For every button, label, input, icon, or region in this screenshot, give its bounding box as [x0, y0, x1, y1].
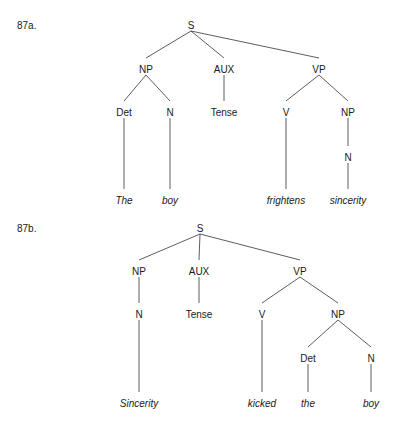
- category-node-v: V: [259, 309, 266, 320]
- example-number: 87a.: [17, 20, 36, 31]
- category-node-n: N: [166, 107, 173, 118]
- category-node-np: NP: [341, 107, 355, 118]
- category-node-tense: Tense: [186, 309, 213, 320]
- terminal-word: frightens: [267, 195, 305, 206]
- category-node-vp: VP: [312, 64, 326, 75]
- tree-edge-s-to-np1: [146, 31, 191, 58]
- category-node-s: S: [197, 223, 204, 234]
- terminal-word: the: [301, 398, 315, 409]
- syntax-tree-diagram: 87a.SNPAUXVPDetNTenseVNPNTheboyfrightens…: [0, 0, 396, 425]
- tree-edge-np1-to-n1: [146, 75, 170, 101]
- tree-edge-vp-to-v: [262, 277, 300, 303]
- category-node-s: S: [188, 20, 195, 31]
- terminal-word: Sincerity: [120, 398, 159, 409]
- category-node-det: Det: [300, 353, 316, 364]
- terminal-word: boy: [162, 195, 179, 206]
- tree-edge-np2-to-n2: [338, 320, 371, 347]
- category-node-tense: Tense: [211, 107, 238, 118]
- tree-edge-s-to-aux: [191, 31, 224, 58]
- tree-edge-np2-to-det: [308, 320, 338, 347]
- tree-87b: 87b.SNPAUXVPNTenseVNPDetNSinceritykicked…: [17, 223, 380, 409]
- tree-edge-vp-to-np2: [319, 75, 348, 101]
- tree-edge-vp-to-v: [286, 75, 319, 101]
- terminal-word: The: [115, 195, 133, 206]
- tree-edge-s-to-np1: [139, 234, 200, 260]
- tree-edge-s-to-vp: [191, 31, 319, 58]
- category-node-n: N: [135, 309, 142, 320]
- tree-87a: 87a.SNPAUXVPDetNTenseVNPNTheboyfrightens…: [17, 20, 367, 206]
- category-node-np: NP: [139, 64, 153, 75]
- tree-edge-s-to-aux: [199, 234, 200, 260]
- tree-edge-np1-to-det1: [124, 75, 146, 101]
- category-node-det: Det: [116, 107, 132, 118]
- terminal-word: sincerity: [330, 195, 368, 206]
- example-number: 87b.: [17, 223, 36, 234]
- tree-edge-vp-to-np2: [300, 277, 338, 303]
- category-node-np: NP: [132, 266, 146, 277]
- terminal-word: boy: [363, 398, 380, 409]
- category-node-vp: VP: [293, 266, 307, 277]
- tree-edge-s-to-vp: [200, 234, 300, 260]
- terminal-word: kicked: [248, 398, 277, 409]
- category-node-np: NP: [331, 309, 345, 320]
- category-node-aux: AUX: [189, 266, 210, 277]
- category-node-n: N: [367, 353, 374, 364]
- category-node-aux: AUX: [214, 64, 235, 75]
- category-node-n: N: [344, 152, 351, 163]
- category-node-v: V: [283, 107, 290, 118]
